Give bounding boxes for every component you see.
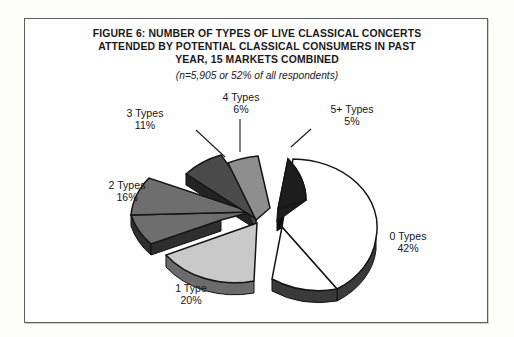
slice-label-3types: 3 Types 11% (107, 107, 183, 132)
leader-line-5plus (291, 129, 311, 147)
leader-line-3types (196, 130, 225, 157)
figure-frame: FIGURE 6: NUMBER OF TYPES OF LIVE CLASSI… (24, 18, 488, 323)
slice-label-4types: 4 Types 6% (205, 91, 277, 116)
slice-label-2types-pct: 16% (87, 191, 167, 203)
pie-chart-svg (25, 19, 489, 324)
slice-label-0types: 0 Types 42% (370, 230, 446, 255)
slice-label-0types-name: 0 Types (370, 230, 446, 242)
slice-label-3types-pct: 11% (107, 119, 183, 131)
slice-label-0types-pct: 42% (370, 242, 446, 254)
slice-label-1type-name: 1 Type (155, 282, 227, 294)
slice-label-2types-name: 2 Types (87, 179, 167, 191)
slice-label-1type: 1 Type 20% (155, 282, 227, 307)
slice-label-4types-pct: 6% (205, 103, 277, 115)
slice-label-2types: 2 Types 16% (87, 179, 167, 204)
slice-label-4types-name: 4 Types (205, 91, 277, 103)
slice-label-5plus-pct: 5% (312, 115, 392, 127)
slice-label-5plus-name: 5+ Types (312, 103, 392, 115)
slice-label-1type-pct: 20% (155, 294, 227, 306)
slice-label-5plus: 5+ Types 5% (312, 103, 392, 128)
slice-label-3types-name: 3 Types (107, 107, 183, 119)
pie-chart: 3 Types 11% 4 Types 6% 5+ Types 5% 2 Typ… (25, 19, 489, 324)
